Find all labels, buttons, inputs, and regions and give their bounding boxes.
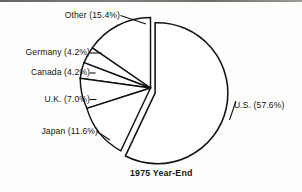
pie-label-us: U.S. (57.6%) (234, 100, 302, 110)
pie-label-canada: Canada (4.2%) (0, 67, 90, 77)
chart-caption: 1975 Year-End (130, 168, 193, 178)
pie-label-germany: Germany (4.2%) (0, 47, 90, 57)
pie-chart-figure: Other (15.4%) Germany (4.2%) Canada (4.2… (0, 0, 302, 192)
pie-label-uk: U.K. (7.0%) (0, 94, 90, 104)
pie-label-other: Other (15.4%) (18, 10, 120, 20)
pie-label-japan: Japan (11.6%) (0, 126, 98, 136)
